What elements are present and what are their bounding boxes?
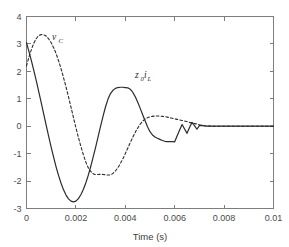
annotation-z0il-main: z: [134, 70, 139, 80]
x-tick-label: 0.004: [114, 213, 137, 223]
y-tick-label: 1: [16, 94, 21, 104]
chart-figure: 00.0020.0040.0060.0080.01 -3-2-101234 v …: [0, 0, 289, 247]
y-axis-ticks: [27, 17, 274, 209]
x-tick-label: 0.008: [213, 213, 236, 223]
y-tick-label: -2: [13, 176, 21, 186]
y-tick-label: 0: [16, 121, 21, 131]
y-tick-label: -3: [13, 204, 21, 214]
series-line-z0iL: [27, 43, 274, 202]
plot-svg: 00.0020.0040.0060.0080.01 -3-2-101234 v …: [0, 0, 289, 247]
y-tick-label: 2: [16, 67, 21, 77]
y-axis-tick-labels: -3-2-101234: [13, 12, 21, 214]
annotation-z0il: z 0 i L: [134, 70, 152, 82]
y-tick-label: 3: [16, 39, 21, 49]
axis-frame: [27, 17, 274, 209]
y-tick-label: 4: [16, 12, 21, 22]
x-tick-label: 0: [24, 213, 29, 223]
series-line-vC: [27, 35, 274, 175]
x-tick-label: 0.006: [163, 213, 186, 223]
annotation-vc: v C: [52, 32, 64, 44]
x-axis-title: Time (s): [133, 231, 167, 242]
x-axis-tick-labels: 00.0020.0040.0060.0080.01: [24, 213, 282, 223]
annotation-vc-sub: C: [59, 37, 64, 44]
annotation-z0il-subl: L: [147, 75, 152, 82]
x-tick-label: 0.002: [65, 213, 88, 223]
x-tick-label: 0.01: [265, 213, 283, 223]
annotation-vc-main: v: [52, 32, 57, 42]
x-axis-ticks: [27, 17, 274, 209]
y-tick-label: -1: [13, 149, 21, 159]
